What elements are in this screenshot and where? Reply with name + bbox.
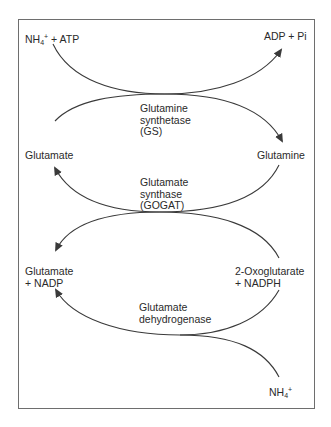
enzyme-gdh: Glutamate dehydrogenase [139, 302, 211, 325]
nh4-bottom-text: NH [269, 386, 284, 398]
atp-text: + ATP [48, 33, 79, 45]
oxoglutarate-line1: 2-Oxoglutarate [235, 266, 304, 278]
node-glutamine: Glutamine [257, 150, 305, 162]
arrow-nh4-atp-to-adp-pi [53, 44, 281, 94]
node-nh4-bottom: NH4+ [269, 384, 292, 402]
enzyme-gs: Glutamine synthetase (GS) [140, 103, 191, 138]
gs-line3: (GS) [140, 126, 191, 138]
gdh-line2: dehydrogenase [139, 314, 211, 326]
pathway-arrows [0, 0, 331, 427]
glutamate-nadp-line2: + NADP [25, 278, 73, 290]
gogat-line3: (GOGAT) [140, 200, 188, 212]
nh4-subscript: 4 [40, 39, 44, 46]
glutamate-nadp-line1: Glutamate [25, 266, 73, 278]
node-glutamate-nadp: Glutamate + NADP [25, 266, 73, 289]
node-oxoglutarate-nadph: 2-Oxoglutarate + NADPH [235, 266, 304, 289]
gogat-line1: Glutamate [140, 177, 188, 189]
oxoglutarate-line2: + NADPH [235, 278, 304, 290]
nh4-bottom-superscript: + [288, 386, 292, 393]
nh4-text: NH [25, 33, 40, 45]
node-adp-pi: ADP + Pi [264, 31, 307, 43]
node-nh4-atp: NH4+ + ATP [25, 31, 79, 49]
arrow-oxoglutarate-to-glutamate-nadp [56, 212, 279, 258]
gs-line1: Glutamine [140, 103, 191, 115]
nh4-bottom-subscript: 4 [284, 392, 288, 399]
gdh-line1: Glutamate [139, 302, 211, 314]
enzyme-gogat: Glutamate synthase (GOGAT) [140, 177, 188, 212]
arrow-nh4-to-gdh [180, 335, 279, 377]
node-glutamate: Glutamate [25, 150, 73, 162]
